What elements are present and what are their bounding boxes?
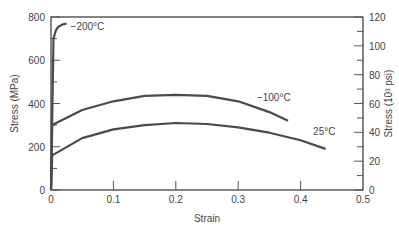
x-axis-title: Strain bbox=[194, 213, 220, 224]
y-right-tick-label: 80 bbox=[369, 70, 381, 81]
y-right-tick-label: 60 bbox=[369, 99, 381, 110]
x-tick-label: 0.3 bbox=[231, 194, 245, 205]
plot-frame bbox=[51, 17, 363, 190]
y-right-tick-label: 100 bbox=[369, 41, 386, 52]
y-right-axis-title: Stress (10³ psi) bbox=[383, 70, 394, 138]
curve-1 bbox=[51, 95, 288, 190]
y-tick-label: 400 bbox=[28, 99, 45, 110]
curve-label: −200°C bbox=[71, 21, 105, 32]
curve-2 bbox=[51, 123, 326, 190]
series-group bbox=[51, 24, 326, 191]
y-axis-title: Stress (MPa) bbox=[9, 74, 20, 132]
y-tick-label: 800 bbox=[28, 12, 45, 23]
curve-0 bbox=[51, 24, 67, 191]
y-right-tick-label: 0 bbox=[369, 185, 375, 196]
x-tick-label: 0.2 bbox=[169, 194, 183, 205]
y-right-tick-label: 120 bbox=[369, 12, 386, 23]
x-tick-label: 0 bbox=[48, 194, 54, 205]
y-right-tick-label: 20 bbox=[369, 156, 381, 167]
curve-label: −100°C bbox=[257, 92, 291, 103]
y-tick-label: 0 bbox=[39, 185, 45, 196]
y-tick-label: 600 bbox=[28, 55, 45, 66]
x-tick-label: 0.4 bbox=[294, 194, 308, 205]
curve-label: 25°C bbox=[313, 126, 335, 137]
y-tick-label: 200 bbox=[28, 142, 45, 153]
axes bbox=[51, 17, 363, 190]
stress-strain-chart: 00.10.20.30.40.5020040060080002040608010… bbox=[0, 0, 399, 231]
x-tick-label: 0.1 bbox=[106, 194, 120, 205]
y-right-tick-label: 40 bbox=[369, 127, 381, 138]
